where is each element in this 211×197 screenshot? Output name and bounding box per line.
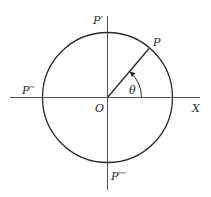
label-theta: θ: [129, 84, 136, 97]
unit-circle-diagram: P′ P P′′ O X θ P′′′: [0, 0, 211, 197]
diagram-canvas: P′ P P′′ O X θ P′′′: [0, 0, 211, 197]
label-p-prime: P′: [92, 14, 103, 27]
label-x-axis: X: [191, 102, 201, 115]
label-p-double-prime: P′′: [21, 84, 35, 97]
label-p-triple-prime: P′′′: [110, 170, 126, 183]
label-origin: O: [95, 102, 104, 115]
label-p: P: [152, 36, 161, 49]
